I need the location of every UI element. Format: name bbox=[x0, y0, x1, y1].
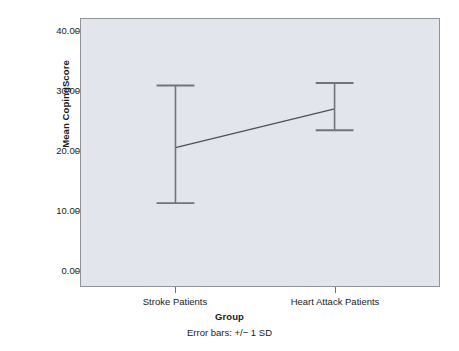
y-tick-label-40: 40.00 bbox=[24, 26, 80, 36]
x-tick-label-stroke-patients: Stroke Patients bbox=[90, 296, 260, 307]
y-axis: 40.00 30.00 20.00 10.00 0.00 bbox=[0, 0, 80, 351]
y-tick-label-10: 10.00 bbox=[24, 206, 80, 216]
x-tick-label-heart-attack-patients: Heart Attack Patients bbox=[250, 296, 420, 307]
x-axis-title: Group bbox=[0, 311, 459, 322]
x-tick-mark-heart-attack-patients bbox=[335, 287, 336, 293]
x-tick-mark-stroke-patients bbox=[175, 287, 176, 293]
y-tick-label-20: 20.00 bbox=[24, 146, 80, 156]
chart-footnote: Error bars: +/− 1 SD bbox=[0, 327, 459, 338]
error-bar-heart-attack-patients bbox=[316, 83, 354, 130]
plot-graphics bbox=[81, 19, 439, 286]
mean-connector-line bbox=[175, 109, 334, 148]
y-tick-label-30: 30.00 bbox=[24, 86, 80, 96]
plot-area bbox=[80, 18, 440, 287]
error-bar-chart: Mean CopingScore 40.00 30.00 20.00 10.00… bbox=[0, 0, 459, 351]
y-tick-label-0: 0.00 bbox=[24, 266, 80, 276]
